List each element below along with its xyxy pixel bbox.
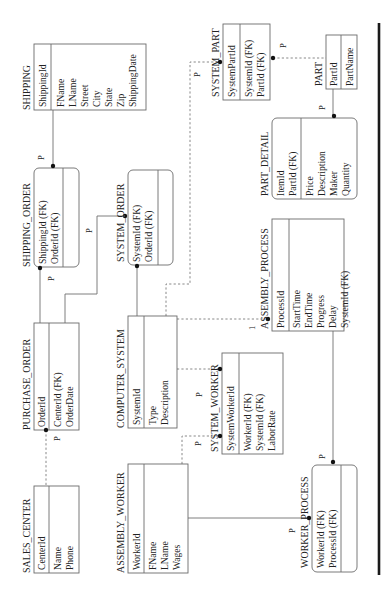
- attr-field: CenterId (FK): [52, 372, 64, 427]
- key-field: OrderId (FK): [143, 211, 155, 262]
- attr-field: SystemId (FK): [243, 40, 255, 97]
- dot-shipping-order-bottom: [38, 266, 42, 270]
- er-diagram: P P P P P P P 1 P P P P SHIPPING SHIPPIN…: [0, 0, 384, 601]
- entity-title: PURCHASE_ORDER: [21, 339, 32, 430]
- attr-field: Zip: [115, 93, 126, 107]
- entity-title: ASSEMBLY_WORKER: [115, 472, 126, 573]
- attr-field: FName: [147, 542, 158, 570]
- key-field: ProcessId (FK): [327, 510, 339, 568]
- entity-title: PART: [313, 62, 324, 86]
- dot-part-detail-top: [332, 114, 336, 118]
- card-p: P: [317, 454, 327, 459]
- key-field: PartId: [328, 62, 339, 86]
- dot-worker-process-top: [331, 460, 335, 464]
- key-field: WorkerId: [131, 533, 142, 570]
- dot-purchase-order-bottom: [44, 428, 48, 432]
- attr-field: Price: [304, 176, 315, 196]
- key-field: SystemPartId: [226, 45, 237, 97]
- attr-field: ShippingDate: [127, 54, 138, 107]
- card-p: P: [52, 436, 62, 441]
- entity-title: SYSTEM_WORKER: [209, 364, 220, 452]
- entity-title: SHIPPING_ORDER: [21, 183, 32, 267]
- entity-title: PART_DETAIL: [259, 132, 270, 196]
- card-p: P: [36, 155, 46, 160]
- entity-title: SYSTEM_ORDER: [115, 183, 126, 262]
- dot-system-part-right: [271, 56, 275, 60]
- attr-field: Street: [79, 84, 90, 107]
- attr-field: FName: [55, 79, 66, 107]
- key-field: SystemId: [131, 389, 142, 425]
- key-field: ShippingId: [37, 64, 48, 107]
- card-p: P: [192, 72, 202, 77]
- attr-field: SystemId (FK): [254, 394, 266, 451]
- attr-field: Delay: [327, 305, 338, 328]
- attr-field: PartName: [344, 48, 355, 86]
- dot-shipping-order-top: [51, 164, 55, 168]
- key-field: ItemId: [275, 170, 286, 196]
- attr-field: Phone: [64, 546, 75, 570]
- key-field: SystemId (FK): [131, 205, 143, 262]
- rel-computer-system-system-part: [166, 62, 220, 316]
- attr-field: Description: [159, 380, 170, 425]
- card-p: P: [84, 228, 94, 233]
- attr-field: StartTime: [291, 290, 302, 328]
- attr-field: Progress: [315, 295, 326, 328]
- entity-title: ASSEMBLY_PROCESS: [259, 228, 270, 329]
- card-p: P: [287, 528, 297, 533]
- key-field: OrderId: [36, 396, 47, 427]
- attr-field: Name: [52, 547, 63, 570]
- card-one: 1: [247, 326, 257, 330]
- card-p: P: [194, 392, 204, 397]
- dot-system-order-bottom: [135, 264, 139, 268]
- entity-title: WORKER_PROCESS: [299, 476, 310, 568]
- attr-field: LName: [67, 78, 78, 107]
- er-diagram-page: P P P P P P P 1 P P P P SHIPPING SHIPPIN…: [0, 0, 384, 601]
- attr-field: State: [103, 88, 114, 107]
- card-p: P: [278, 43, 288, 48]
- key-field: ShippingId (FK): [37, 200, 49, 264]
- key-field: PartId (FK): [287, 152, 299, 197]
- attr-field: Wages: [171, 544, 182, 570]
- entity-title: SYSTEM_PART: [210, 29, 221, 98]
- attr-field: PartId (FK): [255, 53, 267, 98]
- card-p: P: [46, 276, 56, 281]
- attr-field: LaborRate: [266, 411, 277, 452]
- attr-field: OrderDate: [64, 387, 75, 427]
- attr-field: Quantity: [340, 162, 351, 196]
- attr-field: City: [91, 90, 102, 107]
- key-field: ProcessId: [275, 290, 286, 328]
- entity-title: SHIPPING: [21, 65, 32, 110]
- attr-field: Description: [316, 151, 327, 196]
- attr-field: WorkerId (FK): [242, 393, 254, 451]
- attr-field: EndTime: [303, 293, 314, 328]
- entity-title: COMPUTER_SYSTEM: [115, 329, 126, 428]
- attr-field: LName: [159, 541, 170, 570]
- entity-worker-process-fields: WorkerId (FK) ProcessId (FK): [315, 510, 339, 568]
- card-p: P: [193, 441, 203, 446]
- attr-field: Type: [147, 406, 158, 425]
- entity-system-order-fields: SystemId (FK) OrderId (FK): [131, 205, 155, 262]
- key-field: SystemWorkerId: [225, 386, 236, 451]
- card-p: P: [317, 105, 327, 110]
- entity-title: SALES_CENTER: [21, 498, 32, 573]
- key-field: CenterId: [36, 536, 47, 570]
- attr-field: Maker: [328, 170, 339, 196]
- key-field: WorkerId (FK): [315, 510, 327, 568]
- attr-field: SystemId (FK): [339, 271, 351, 328]
- key-field: OrderId (FK): [49, 213, 61, 264]
